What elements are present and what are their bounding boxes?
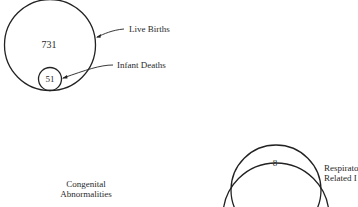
venn-diagram-canvas: 731 51 Live Births Infant Deaths Congeni…: [0, 0, 358, 207]
live-births-leader-line: [97, 29, 124, 37]
live-births-value: 731: [42, 39, 57, 50]
lower-overlap-circle: [223, 163, 329, 207]
infant-deaths-arrowhead-icon: [62, 75, 68, 79]
respiratory-label-line2: Related I: [324, 173, 357, 183]
live-births-arrowhead-icon: [96, 34, 101, 38]
respiratory-label-line1: Respirato: [324, 163, 358, 173]
congenital-label-line2: Abnormalities: [60, 189, 112, 199]
infant-deaths-label: Infant Deaths: [117, 60, 166, 70]
live-births-label: Live Births: [129, 24, 170, 34]
respiratory-upper-circle: [231, 145, 321, 207]
bottom-venn-group: Congenital Abnormalities 8 Respirato Rel…: [60, 145, 358, 207]
infant-deaths-leader-line: [63, 65, 113, 78]
infant-deaths-value: 51: [46, 74, 55, 84]
top-venn-group: 731 51 Live Births Infant Deaths: [5, 0, 171, 91]
respiratory-only-value: 8: [273, 158, 278, 168]
congenital-label-line1: Congenital: [66, 179, 106, 189]
